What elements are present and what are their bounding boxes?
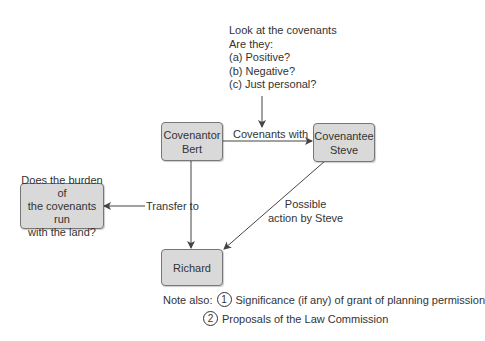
note-text: Significance (if any) of grant of planni… — [236, 294, 485, 306]
number-circle-icon: 1 — [217, 292, 232, 307]
node-label: the covenants run — [21, 200, 103, 226]
question-line: (a) Positive? — [229, 51, 337, 65]
node-richard: Richard — [161, 249, 223, 286]
edge-label-covenants-with: Covenants with — [233, 128, 308, 142]
node-label: Covenantee — [314, 129, 373, 143]
question-line: (c) Just personal? — [229, 78, 337, 92]
edge-label-line: Possible — [268, 198, 343, 212]
node-label: Bert — [164, 142, 221, 156]
question-line: Look at the covenants — [229, 24, 337, 38]
edge-label-possible-action: Possible action by Steve — [268, 198, 343, 225]
note-item-2: 2 Proposals of the Law Commission — [203, 311, 388, 326]
note-text: Proposals of the Law Commission — [222, 313, 388, 325]
edge-label-line: action by Steve — [268, 212, 343, 226]
note-item-1: Note also: 1 Significance (if any) of gr… — [163, 292, 485, 307]
node-covenantor-bert: Covenantor Bert — [161, 122, 223, 161]
question-note: Look at the covenants Are they: (a) Posi… — [229, 24, 337, 92]
node-label: with the land? — [21, 226, 103, 239]
edge-label-transfer-to: Transfer to — [146, 200, 199, 214]
note-label: Note also: — [163, 294, 213, 306]
node-label: Covenantor — [164, 128, 221, 142]
question-line: Are they: — [229, 38, 337, 52]
node-covenantee-steve: Covenantee Steve — [313, 123, 375, 162]
node-label: Richard — [173, 261, 211, 275]
node-burden-question: Does the burden of the covenants run wit… — [20, 183, 104, 229]
node-label: Does the burden of — [21, 174, 103, 200]
question-line: (b) Negative? — [229, 65, 337, 79]
node-label: Steve — [314, 143, 373, 157]
number-circle-icon: 2 — [203, 311, 218, 326]
